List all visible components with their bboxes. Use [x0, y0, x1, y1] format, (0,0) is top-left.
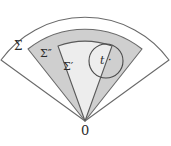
label-sigma-double-prime: Σ″	[40, 48, 52, 59]
label-sigma-outer: Σ	[14, 40, 22, 52]
label-sigma-prime: Σ′	[63, 61, 73, 72]
label-origin: 0	[81, 124, 89, 137]
label-t-circle: t ·	[100, 55, 111, 66]
figure-container: Σ Σ″ Σ′ t · 0	[0, 0, 171, 146]
